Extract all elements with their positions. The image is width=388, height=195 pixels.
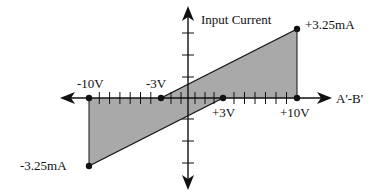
point-pos10v: [294, 95, 300, 101]
point-pos-current: [294, 26, 300, 32]
neg-current-label: -3.25mA: [20, 158, 67, 173]
point-neg10v: [86, 95, 92, 101]
x-axis-label: A'-B': [336, 91, 363, 106]
pos-current-label: +3.25mA: [305, 17, 355, 32]
y-axis-label: Input Current: [201, 12, 272, 27]
neg3v-label: -3V: [146, 76, 167, 91]
input-current-diagram: Input Current +3.25mA -10V -3V A'-B' +3V…: [0, 0, 388, 195]
neg10v-label: -10V: [77, 76, 104, 91]
point-neg3v: [158, 95, 164, 101]
point-neg-current: [86, 163, 92, 169]
pos10v-label: +10V: [280, 105, 310, 120]
pos3v-label: +3V: [212, 105, 236, 120]
point-pos3v: [220, 95, 226, 101]
